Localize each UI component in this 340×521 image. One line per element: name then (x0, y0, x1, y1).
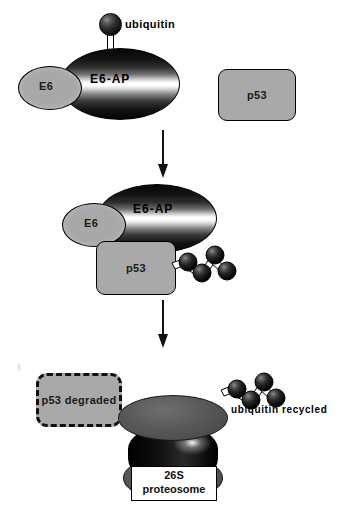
p53-label-middle: p53 (97, 262, 175, 274)
diagram-canvas: ubiquitin E6-AP E6 p53 E6-AP E6 p53 (0, 0, 340, 521)
proteasome-label-line1: 26S (135, 469, 213, 483)
proteasome-top-cap (118, 395, 228, 441)
p53-degraded-label: p53 degraded (39, 394, 119, 406)
proteasome-label-line2: proteosome (135, 483, 213, 497)
p53-degraded-line1: p53 (41, 394, 61, 406)
ubiquitin-sphere-top (99, 13, 122, 36)
ubiquitin-label: ubiquitin (125, 18, 175, 30)
e6-label-top: E6 (39, 80, 53, 92)
e6ap-label-middle: E6-AP (133, 203, 173, 216)
ubiquitin-sphere (193, 264, 211, 282)
arrow-shaft (162, 300, 164, 336)
p53-degraded-line2: degraded (65, 394, 117, 406)
p53-box-top: p53 (218, 69, 296, 121)
p53-box-middle: p53 (96, 241, 176, 295)
ubiquitin-recycled-label: ubiquitin recycled (231, 404, 327, 415)
arrow-shaft (162, 130, 164, 166)
arrow-top-to-middle (156, 130, 170, 178)
p53-label-top: p53 (219, 89, 295, 101)
p53-degraded-box: p53 degraded (36, 373, 122, 427)
ubiquitin-sphere (206, 246, 224, 264)
ubiquitin-sphere (255, 373, 273, 391)
ubiquitin-sphere (218, 262, 236, 280)
arrow-head (158, 164, 168, 178)
proteasome-label-box: 26S proteosome (131, 466, 217, 501)
e6-label-middle: E6 (84, 217, 98, 229)
arrow-middle-to-bottom (156, 300, 170, 348)
arrow-head (158, 334, 168, 348)
ubiquitin-chain-middle (168, 236, 248, 292)
scan-artifact: § (17, 363, 21, 372)
e6ap-label-top: E6-AP (90, 73, 130, 86)
